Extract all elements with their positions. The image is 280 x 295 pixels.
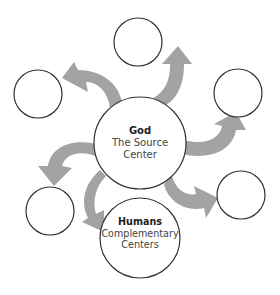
empty-node-upper-right bbox=[214, 69, 262, 117]
empty-node-lower-right bbox=[217, 171, 265, 219]
humans-node-line1: Complementary bbox=[98, 228, 182, 240]
humans-node-line2: Centers bbox=[98, 239, 182, 251]
arrow-to-upper-right bbox=[182, 112, 246, 156]
god-node-line1: The Source bbox=[95, 137, 185, 149]
arrow-to-lower-right bbox=[164, 176, 218, 218]
arrow-to-upper-left bbox=[62, 62, 122, 108]
empty-node-top bbox=[114, 18, 162, 66]
god-node-line2: Center bbox=[95, 149, 185, 161]
god-node-label: God The Source Center bbox=[95, 125, 185, 161]
empty-node-lower-left bbox=[26, 187, 74, 235]
humans-node-label: Humans Complementary Centers bbox=[98, 216, 182, 251]
humans-node-title: Humans bbox=[98, 216, 182, 228]
empty-node-upper-left bbox=[14, 70, 62, 118]
god-node-title: God bbox=[95, 125, 185, 137]
